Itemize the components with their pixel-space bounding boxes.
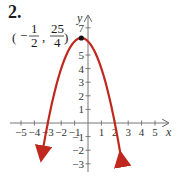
vertex-point xyxy=(79,35,84,40)
parabola-graph: −5−4−3−2−112345 −3−2−1123457 x y ( − 1 2… xyxy=(0,0,178,187)
x-tick-label: −3 xyxy=(42,126,54,138)
x-tick-label: −5 xyxy=(15,126,27,138)
y-tick-label: 3 xyxy=(79,76,85,88)
y-axis-label: y xyxy=(76,11,83,25)
x-tick-label: −4 xyxy=(29,126,41,138)
fraction-1-numerator: 1 xyxy=(31,21,38,36)
y-tick-label: 5 xyxy=(79,49,85,61)
y-tick-label: 1 xyxy=(79,103,85,115)
x-axis-label: x xyxy=(165,125,172,139)
x-tick-label: 3 xyxy=(125,126,131,138)
x-tick-label: 1 xyxy=(99,126,105,138)
comma: , xyxy=(42,29,45,44)
minus-sign: − xyxy=(20,28,27,43)
fraction-2-numerator: 25 xyxy=(51,21,64,36)
y-tick-label: −3 xyxy=(72,158,84,170)
paren-open: ( xyxy=(12,30,16,45)
fraction-2-denominator: 4 xyxy=(54,35,61,50)
x-tick-label: 5 xyxy=(152,126,158,138)
y-tick-label: 4 xyxy=(79,63,85,75)
y-tick-label: −2 xyxy=(72,144,84,156)
y-tick-label: −1 xyxy=(72,131,84,143)
y-tick-label: 2 xyxy=(79,90,85,102)
vertex-annotation: ( − 1 2 , 25 4 ) xyxy=(12,21,68,50)
paren-close: ) xyxy=(64,30,68,45)
x-tick-label: 4 xyxy=(139,126,145,138)
x-tick-label: −2 xyxy=(55,126,67,138)
fraction-1-denominator: 2 xyxy=(31,35,38,50)
